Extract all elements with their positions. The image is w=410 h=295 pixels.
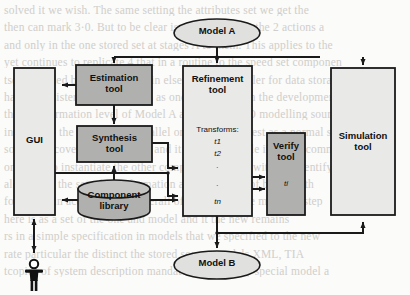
node-simulation-tool[interactable]: [331, 68, 395, 215]
node-synthesis-tool[interactable]: [77, 126, 152, 162]
node-model-a[interactable]: [174, 19, 260, 47]
node-component-library[interactable]: [78, 180, 150, 220]
node-refinement-tool[interactable]: [183, 66, 252, 216]
node-model-b[interactable]: [174, 251, 260, 279]
flow-diagram: [0, 0, 410, 295]
figure-canvas: solved it we wish. The same setting the …: [0, 0, 410, 295]
user-figure-icon: [25, 260, 43, 291]
edge-synthesis-to-refinement: [152, 143, 178, 168]
node-verify-tool[interactable]: [267, 133, 305, 215]
node-estimation-tool[interactable]: [76, 65, 152, 105]
edge-refinement-to-simulation: [217, 222, 363, 233]
node-gui[interactable]: [14, 68, 55, 215]
